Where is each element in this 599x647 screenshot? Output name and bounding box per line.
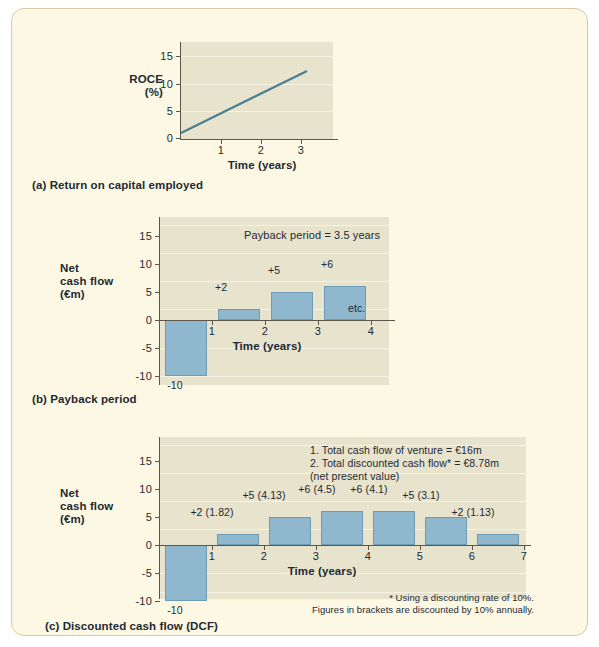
panel-a-x-axis-title: Time (years) [207, 159, 317, 171]
x-tick-label: 3 [303, 550, 329, 562]
panel-b-zero-line [159, 320, 395, 321]
x-tick-label: 2 [251, 550, 277, 562]
bar-year-7 [477, 534, 519, 545]
bar-year-3 [271, 292, 313, 320]
y-axis-label-line: Net [60, 262, 130, 275]
panel-c-x-axis-title: Time (years) [267, 565, 377, 577]
bar-label-year-1: -10 [145, 379, 205, 391]
y-axis-label-line: cash flow [60, 275, 130, 288]
y-tick [155, 517, 160, 518]
y-tick [155, 489, 160, 490]
x-tick-label: 1 [199, 325, 225, 337]
panel-b-y-axis [159, 217, 160, 385]
panel-b-plot-area [160, 217, 389, 385]
annotation-line: (net present value) [310, 470, 499, 483]
y-tick-label: 10 [124, 483, 152, 495]
x-tick-label: 2 [248, 144, 274, 156]
bar-label-year-2: +2 [191, 281, 251, 293]
panel-a: ROCE (%) 15 10 5 0 1 2 3 Time (years) [12, 9, 589, 189]
y-tick-label: 10 [145, 78, 173, 90]
panel-c-y-axis-title: Net cash flow (€m) [60, 487, 130, 526]
bar-year-4 [321, 511, 363, 545]
bar-year-6 [425, 517, 467, 545]
gridline [160, 225, 389, 226]
x-tick-label: 7 [511, 550, 537, 562]
gridline [160, 253, 389, 254]
x-tick-label: 1 [199, 550, 225, 562]
bar-label-year-1: -10 [145, 604, 205, 616]
y-tick [176, 111, 181, 112]
y-axis-label-line: cash flow [60, 500, 130, 513]
y-tick [155, 573, 160, 574]
footnote-line: * Using a discounting rate of 10%. [286, 592, 534, 604]
y-tick-label: 0 [124, 314, 152, 326]
bar-year-2 [218, 309, 260, 320]
bar-label-year-7: +2 (1.13) [431, 506, 515, 518]
bar-label-year-3: +5 [244, 264, 304, 276]
y-tick-label: 0 [145, 132, 173, 144]
bar-label-year-6: +5 (3.1) [379, 489, 463, 501]
panel-b: Net cash flow (€m) 15 10 [12, 205, 589, 405]
panel-a-x-axis [180, 139, 338, 140]
x-tick-label: 5 [407, 550, 433, 562]
bar-label-year-4: +6 [297, 258, 357, 270]
gridline [160, 376, 389, 377]
panel-b-y-axis-title: Net cash flow (€m) [60, 262, 130, 301]
y-tick-label: 15 [124, 455, 152, 467]
x-tick-label: 4 [355, 550, 381, 562]
annotation-line: 1. Total cash flow of venture = €16m [310, 444, 499, 457]
annotation-line: 2. Total discounted cash flow* = €8.78m [310, 457, 499, 470]
y-tick-label: 0 [124, 539, 152, 551]
y-tick-label: -5 [124, 342, 152, 354]
y-tick [155, 601, 160, 602]
y-axis-label-line: Net [60, 487, 130, 500]
y-tick-label: 5 [145, 105, 173, 117]
x-tick-label: 2 [252, 325, 278, 337]
x-tick-label: 1 [208, 144, 234, 156]
gridline [160, 501, 526, 502]
dcf-summary-annotation: 1. Total cash flow of venture = €16m 2. … [310, 444, 499, 483]
x-tick-label: 6 [459, 550, 485, 562]
y-tick-label: -5 [124, 567, 152, 579]
panel-c: Net cash flow (€m) 15 [12, 424, 589, 637]
payback-period-annotation: Payback period = 3.5 years [244, 229, 380, 241]
bar-year-2 [217, 534, 259, 545]
y-axis-label-line: (€m) [60, 513, 130, 526]
y-tick [155, 545, 160, 546]
panel-a-plot-area [181, 42, 333, 139]
x-tick-label: 3 [305, 325, 331, 337]
y-tick-label: 5 [124, 286, 152, 298]
y-tick-label: 15 [124, 230, 152, 242]
panel-c-caption: (c) Discounted cash flow (DCF) [45, 620, 218, 632]
y-tick [155, 348, 160, 349]
footnote-line: Figures in brackets are discounted by 10… [286, 604, 534, 616]
dcf-footnote: * Using a discounting rate of 10%. Figur… [286, 592, 534, 615]
x-tick-label: 4 [358, 325, 384, 337]
bar-year-3 [269, 517, 311, 545]
y-tick [155, 461, 160, 462]
y-axis-label-line: (€m) [60, 288, 130, 301]
bar-year-5 [373, 511, 415, 545]
y-tick [176, 84, 181, 85]
y-tick [155, 292, 160, 293]
x-tick-label: 3 [288, 144, 314, 156]
y-tick-label: 15 [145, 50, 173, 62]
y-tick [155, 264, 160, 265]
bar-label-year-2: +2 (1.82) [170, 506, 254, 518]
panel-a-caption: (a) Return on capital employed [32, 179, 203, 191]
roce-line [181, 42, 333, 139]
y-tick-label: 10 [124, 258, 152, 270]
y-tick-label: 5 [124, 511, 152, 523]
figure-frame: ROCE (%) 15 10 5 0 1 2 3 Time (years) [11, 8, 588, 636]
y-tick [155, 320, 160, 321]
y-tick [155, 236, 160, 237]
panel-b-caption: (b) Payback period [32, 393, 137, 405]
panel-b-x-axis-title: Time (years) [212, 340, 322, 352]
etc-label: etc. [348, 302, 365, 314]
y-tick [155, 376, 160, 377]
y-tick [176, 56, 181, 57]
panel-c-zero-line [159, 545, 531, 546]
